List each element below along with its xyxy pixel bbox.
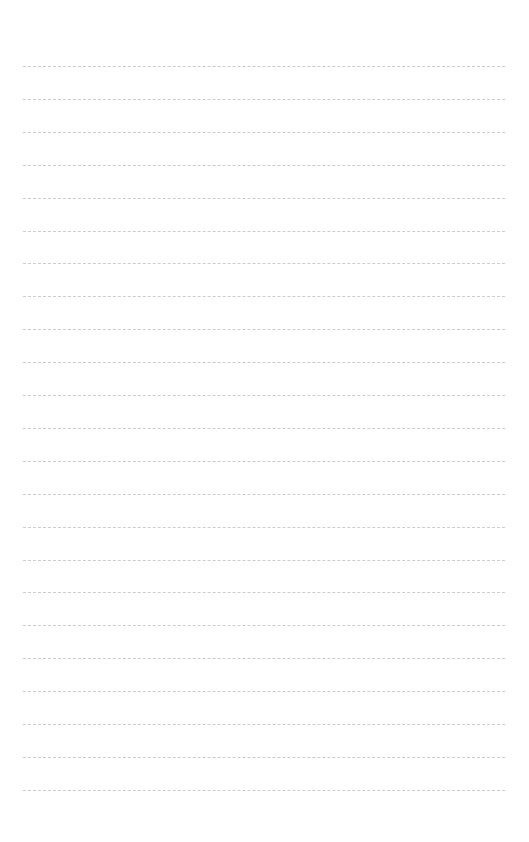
ruled-line — [23, 198, 505, 199]
lined-paper-page — [0, 0, 529, 842]
ruled-line — [23, 296, 505, 297]
ruled-line — [23, 165, 505, 166]
ruled-line — [23, 132, 505, 133]
ruled-line — [23, 625, 505, 626]
ruled-line — [23, 395, 505, 396]
ruled-line — [23, 757, 505, 758]
ruled-line — [23, 99, 505, 100]
ruled-line — [23, 66, 505, 67]
ruled-line — [23, 263, 505, 264]
ruled-line — [23, 428, 505, 429]
ruled-line — [23, 494, 505, 495]
ruled-line — [23, 231, 505, 232]
ruled-line — [23, 691, 505, 692]
ruled-line — [23, 329, 505, 330]
ruled-line — [23, 790, 505, 791]
ruled-line — [23, 724, 505, 725]
ruled-line — [23, 592, 505, 593]
ruled-line — [23, 527, 505, 528]
ruled-line — [23, 461, 505, 462]
ruled-line — [23, 560, 505, 561]
ruled-line — [23, 658, 505, 659]
ruled-line — [23, 362, 505, 363]
